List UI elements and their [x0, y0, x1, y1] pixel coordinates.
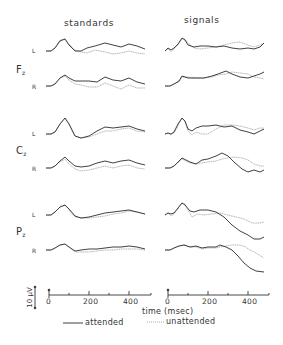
waveform-traces	[46, 38, 264, 272]
x-axis-label: time (msec)	[142, 307, 193, 316]
waveform-standards-cz-l-attended	[46, 118, 145, 138]
waveform-signals-fz-r-attended	[165, 71, 264, 86]
waveform-signals-fz-l-attended	[165, 38, 264, 51]
waveform-standards-fz-l-attended	[46, 39, 145, 51]
electrode-label-cz: Cz	[16, 145, 27, 157]
scale-bar-label: 10 µV	[26, 287, 34, 308]
waveform-standards-fz-l-unattended	[46, 39, 145, 54]
tick-label-400-standards: 400	[123, 297, 138, 306]
tick-label-0-standards: 0	[46, 297, 51, 306]
hemisphere-label-pz-right: R	[32, 247, 36, 254]
waveform-standards-cz-r-attended	[46, 157, 145, 168]
waveform-signals-cz-r-attended	[165, 153, 264, 172]
column-title-signals: signals	[184, 15, 220, 25]
voltage-scale-bar	[34, 286, 36, 309]
hemisphere-label-cz-left: L	[32, 130, 36, 137]
waveform-signals-pz-l-attended	[165, 203, 264, 239]
legend-label-attended: attended	[85, 318, 124, 327]
waveform-standards-cz-l-unattended	[46, 118, 145, 138]
waveform-signals-cz-l-attended	[165, 118, 264, 134]
hemisphere-label-fz-right: R	[32, 83, 36, 90]
tick-label-200-signals: 200	[202, 297, 217, 306]
legend-label-unattended: unattended	[166, 317, 215, 326]
electrode-label-pz: Pz	[16, 226, 26, 238]
waveform-signals-cz-r-unattended	[165, 157, 264, 168]
hemisphere-label-pz-left: L	[32, 211, 36, 218]
hemisphere-label-fz-left: L	[32, 47, 36, 54]
erp-figure: 10 µV	[0, 0, 283, 345]
tick-label-0-signals: 0	[165, 297, 170, 306]
electrode-label-fz: Fz	[16, 64, 26, 76]
tick-label-200-standards: 200	[83, 297, 98, 306]
waveform-standards-pz-r-attended	[46, 244, 145, 251]
hemisphere-label-cz-right: R	[32, 165, 36, 172]
waveform-standards-fz-r-attended	[46, 75, 145, 86]
column-title-standards: standards	[64, 18, 114, 28]
tick-label-400-signals: 400	[242, 297, 257, 306]
